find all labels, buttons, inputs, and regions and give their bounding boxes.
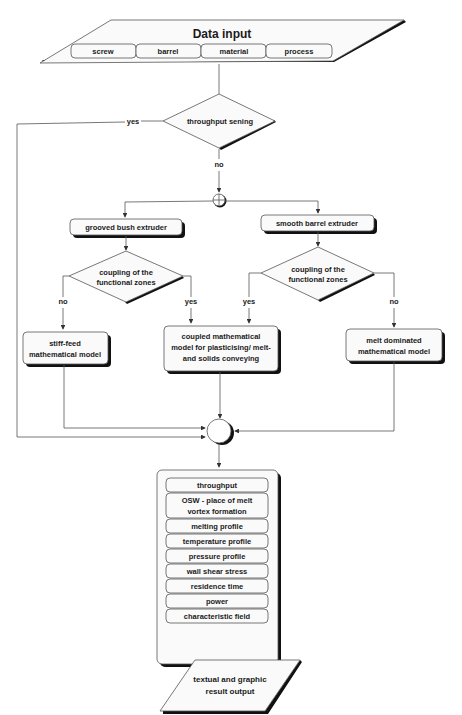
grooved-bush-extruder-box: grooved bush extruder: [70, 219, 185, 238]
output-line1: textual and graphic: [193, 675, 267, 684]
decision-right-line2: functional zones: [288, 275, 347, 284]
decision-throughput: throughput sening: [163, 94, 276, 150]
coupled-model-line3: and solids conveying: [183, 354, 260, 363]
tab-process-label: process: [285, 47, 314, 56]
grooved-bush-extruder-label: grooved bush extruder: [85, 223, 167, 232]
decision-left-line2: functional zones: [96, 278, 155, 287]
result-item-label: melting profile: [191, 522, 243, 531]
data-input-tabs: screw barrel material process: [71, 44, 332, 58]
flowchart: Data input screw barrel material process…: [0, 0, 462, 715]
stiff-feed-model-box: stiff-feed mathematical model: [23, 332, 111, 367]
data-input-title: Data input: [193, 27, 252, 41]
stiff-feed-line2: mathematical model: [29, 350, 101, 359]
decision-left-line1: coupling of the: [99, 268, 153, 277]
yes-label-throughput: yes: [127, 117, 140, 126]
output-line2: result output: [206, 687, 255, 696]
decision-coupling-left: coupling of the functional zones: [69, 251, 184, 304]
coupled-model-line1: coupled mathematical: [182, 332, 261, 341]
tab-screw-label: screw: [92, 47, 113, 56]
no-label-left: no: [58, 297, 68, 306]
merge-circle: [207, 419, 234, 445]
coupled-model-line2: model for plasticising/ melt-: [171, 343, 271, 352]
result-item-label: OSW - place of melt: [182, 496, 253, 505]
no-label-throughput: no: [214, 160, 224, 169]
decision-right-line1: coupling of the: [291, 265, 345, 274]
coupled-model-box: coupled mathematical model for plasticis…: [164, 326, 281, 374]
smooth-barrel-extruder-label: smooth barrel extruder: [276, 219, 358, 228]
decision-coupling-right: coupling of the functional zones: [261, 247, 375, 302]
junction-circle: [213, 194, 227, 208]
data-input-block: Data input screw barrel material process: [40, 20, 406, 63]
melt-dominated-line1: melt dominated: [366, 336, 422, 345]
results-list: throughputOSW - place of meltvortex form…: [166, 478, 268, 623]
decision-throughput-label: throughput sening: [187, 117, 254, 126]
no-label-right: no: [389, 297, 399, 306]
stiff-feed-line1: stiff-feed: [49, 339, 81, 348]
melt-dominated-line2: mathematical model: [358, 347, 430, 356]
yes-label-right: yes: [243, 297, 256, 306]
result-item-label: wall shear stress: [186, 567, 247, 576]
result-output-block: textual and graphic result output: [160, 660, 302, 714]
result-item-label: power: [206, 597, 228, 606]
tab-material-label: material: [220, 47, 249, 56]
result-item-label: characteristic field: [184, 612, 251, 621]
yes-label-left: yes: [185, 297, 198, 306]
result-item-label: temperature profile: [183, 537, 251, 546]
result-item-label: vortex formation: [187, 507, 247, 516]
result-item-label: residence time: [191, 582, 244, 591]
result-item-label: throughput: [197, 481, 237, 490]
smooth-barrel-extruder-box: smooth barrel extruder: [261, 215, 377, 234]
melt-dominated-model-box: melt dominated mathematical model: [346, 329, 445, 364]
tab-barrel-label: barrel: [158, 47, 179, 56]
result-item-label: pressure profile: [189, 552, 246, 561]
